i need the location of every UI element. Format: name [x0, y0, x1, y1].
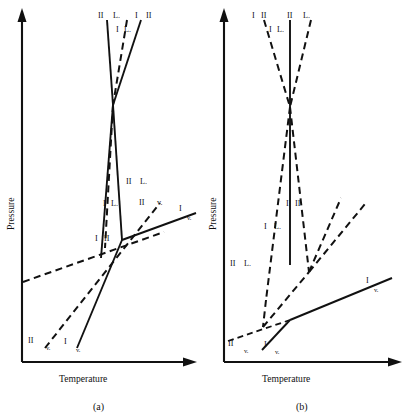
svg-text:v.: v.	[157, 198, 163, 207]
panel-a-label-ii-l-mid: II L.	[126, 177, 147, 186]
svg-text:v.: v.	[244, 347, 249, 354]
panel-a-label-i-l-mid: I L.	[103, 199, 118, 208]
svg-text:L.: L.	[277, 25, 284, 34]
panel-a-curve-i-ii-lower-right	[113, 105, 122, 240]
panel-b-label-i-l-top: I L.	[269, 25, 284, 34]
svg-text:v.: v.	[76, 346, 81, 353]
panel-b-label-ii-l-top: II L.	[287, 11, 310, 20]
svg-text:I: I	[135, 11, 138, 20]
panel-b-curve-ii-l-upper-dashed	[290, 20, 311, 107]
svg-text:v.: v.	[187, 214, 192, 221]
svg-text:II: II	[126, 177, 132, 186]
panel-a-curve-ii-vapour-shallow-dashed	[23, 232, 164, 282]
panel-a-plot: II L. I II I L. II L. I L. II v.	[0, 0, 206, 419]
panel-a-y-axis	[18, 8, 27, 362]
svg-text:L.: L.	[303, 11, 310, 20]
panel-b-label-i-l-mid: I L.	[264, 222, 281, 231]
svg-text:II: II	[139, 198, 145, 207]
panel-b-curve-fan-steep-dashed	[309, 198, 341, 272]
svg-text:Pressure: Pressure	[207, 197, 218, 230]
svg-text:v.: v.	[374, 286, 379, 293]
svg-text:Pressure: Pressure	[5, 197, 16, 230]
svg-text:I: I	[264, 340, 267, 349]
svg-text:L.: L.	[274, 222, 281, 231]
svg-text:II: II	[287, 11, 293, 20]
svg-text:L.: L.	[111, 199, 118, 208]
svg-text:I: I	[264, 222, 267, 231]
panel-b-curve-i-vapour-right	[290, 278, 392, 320]
panel-a-label-ii-l-top: II L.	[98, 11, 120, 20]
panel-a-x-axis-title: Temperature	[59, 373, 107, 384]
panel-b-curve-i-ii-lower-dashed	[290, 107, 309, 272]
svg-text:v.: v.	[46, 344, 51, 351]
panel-b-y-axis-title: Pressure	[207, 197, 218, 230]
panel-b-x-axis-title: Temperature	[262, 373, 310, 384]
svg-text:I: I	[366, 276, 369, 285]
svg-text:II: II	[295, 199, 301, 208]
svg-text:II: II	[98, 11, 104, 20]
svg-text:I: I	[286, 199, 289, 208]
panel-a-x-axis	[22, 358, 197, 367]
panel-a-label-ii-v-bottom: II v.	[28, 336, 51, 351]
panel-b-label-i-ii-top: I II	[252, 11, 267, 20]
svg-text:L.: L.	[244, 259, 251, 268]
panel-b-caption: (b)	[296, 401, 308, 413]
svg-text:I: I	[116, 25, 119, 34]
panel-a-curve-ii-vapour-steep-dashed	[45, 203, 160, 348]
panel-b-label-ii-l-mid: II L.	[230, 259, 251, 268]
panel-a-curve-i-vapour-steep	[77, 240, 122, 348]
svg-text:II: II	[261, 11, 267, 20]
svg-text:L.: L.	[140, 177, 147, 186]
panel-a-label-i-l-top: I L.	[116, 25, 131, 34]
panel-b-y-axis	[220, 8, 229, 362]
svg-text:II: II	[104, 234, 110, 243]
svg-text:II: II	[28, 336, 34, 345]
svg-text:I: I	[252, 11, 255, 20]
svg-text:I: I	[179, 204, 182, 213]
svg-text:II: II	[146, 11, 152, 20]
svg-text:II: II	[230, 259, 236, 268]
panel-b-x-axis	[224, 358, 402, 367]
panel-b-curve-ii-vapour-steep-dashed	[263, 272, 309, 327]
panel-a-curve-i-vapour-shallow	[122, 213, 196, 240]
panel-b-label-ii-v-bottom: II v.	[228, 339, 249, 354]
panel-a-curve-ii-l-upper	[107, 20, 113, 105]
panel-a: II L. I II I L. II L. I L. II v.	[0, 0, 206, 419]
panel-b-curve-fan-shallow-dashed	[309, 204, 365, 272]
panel-b: I II II L. I L. I II I L. II L.	[206, 0, 412, 419]
svg-text:v.: v.	[275, 348, 280, 355]
svg-text:L.: L.	[124, 25, 131, 34]
svg-text:I: I	[103, 199, 106, 208]
panel-b-label-i-v-bottom: I v.	[264, 340, 280, 355]
svg-text:II: II	[228, 339, 234, 348]
phase-diagram-figure: II L. I II I L. II L. I L. II v.	[0, 0, 412, 419]
panel-a-label-ii-v-mid: II v.	[139, 198, 163, 207]
panel-b-plot: I II II L. I L. I II I L. II L.	[206, 0, 412, 419]
panel-a-label-i-ii-top: I II	[135, 11, 152, 20]
panel-a-y-axis-title: Pressure	[5, 197, 16, 230]
panel-a-caption: (a)	[93, 401, 104, 413]
panel-b-label-i-ii-mid: I II	[286, 199, 301, 208]
svg-text:I: I	[95, 234, 98, 243]
svg-text:L.: L.	[113, 11, 120, 20]
svg-text:I: I	[269, 25, 272, 34]
svg-text:I: I	[64, 337, 67, 346]
